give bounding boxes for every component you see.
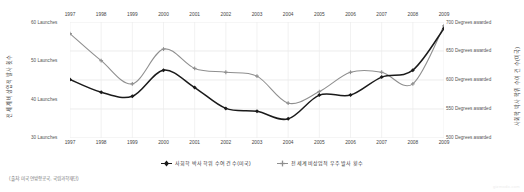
x-tick-label-bottom-1997: 1997 — [57, 141, 83, 146]
y-left-tick-label-50: 50 Launches — [31, 59, 57, 64]
x-tick-label-top-2007: 2007 — [369, 13, 395, 18]
left-axis-title: 전 세계 비상업적 발사 횟수 — [7, 31, 12, 143]
x-tick-label-bottom-1999: 1999 — [119, 141, 145, 146]
x-tick-label-top-2009: 2009 — [431, 13, 457, 18]
x-tick-label-bottom-2005: 2005 — [306, 141, 332, 146]
x-tick-label-top-1997: 1997 — [57, 13, 83, 18]
y-left-tick-label-30: 30 Launches — [31, 136, 57, 141]
source-note: (출처: 미국 연방항공국, 국립과학재단) — [9, 177, 78, 182]
legend-label-sociology: 사회학 박사 학위 수여 건 수(미국) — [175, 161, 250, 166]
x-tick-label-bottom-2007: 2007 — [369, 141, 395, 146]
chart-container: 전 세계 비상업적 발사 횟수 사회학 박사 학위 수여 건 수(미국) 60 … — [0, 0, 524, 192]
legend-item-launches[interactable]: 전 세계 비상업적 우주 발사 횟수 — [277, 160, 363, 167]
plot-area — [70, 22, 444, 138]
plus-marker-icon — [277, 160, 288, 167]
legend-label-launches: 전 세계 비상업적 우주 발사 횟수 — [291, 161, 363, 166]
chart-legend: 사회학 박사 학위 수여 건 수(미국) 전 세계 비상업적 우주 발사 횟수 — [0, 160, 524, 167]
y-right-tick-label-600: 600 Degrees awarded — [446, 78, 491, 83]
legend-item-sociology[interactable]: 사회학 박사 학위 수여 건 수(미국) — [161, 160, 250, 167]
watermark: gizmodo.com — [493, 185, 520, 189]
x-tick-label-bottom-2008: 2008 — [400, 141, 426, 146]
y-right-tick-label-700: 700 Degrees awarded — [446, 21, 491, 26]
x-tick-label-bottom-2003: 2003 — [244, 141, 270, 146]
y-left-tick-label-40: 40 Launches — [31, 98, 57, 103]
x-tick-label-top-2000: 2000 — [151, 13, 177, 18]
x-tick-label-top-1998: 1998 — [88, 13, 114, 18]
y-right-tick-label-650: 650 Degrees awarded — [446, 49, 491, 54]
x-tick-label-top-2002: 2002 — [213, 13, 239, 18]
x-tick-label-top-2004: 2004 — [275, 13, 301, 18]
x-tick-label-top-2001: 2001 — [182, 13, 208, 18]
x-tick-label-bottom-1998: 1998 — [88, 141, 114, 146]
y-right-tick-label-550: 550 Degrees awarded — [446, 107, 491, 112]
x-tick-label-top-2003: 2003 — [244, 13, 270, 18]
x-tick-label-bottom-2006: 2006 — [338, 141, 364, 146]
diamond-marker-icon — [161, 160, 172, 167]
grid-lines — [70, 22, 444, 138]
y-left-tick-label-60: 60 Launches — [31, 21, 57, 26]
right-axis-title: 사회학 박사 학위 수여 건 수(미국) — [515, 31, 520, 143]
x-tick-label-bottom-2002: 2002 — [213, 141, 239, 146]
x-tick-label-top-2005: 2005 — [306, 13, 332, 18]
x-tick-label-bottom-2001: 2001 — [182, 141, 208, 146]
x-tick-label-top-2006: 2006 — [338, 13, 364, 18]
x-tick-label-bottom-2004: 2004 — [275, 141, 301, 146]
x-tick-label-top-1999: 1999 — [119, 13, 145, 18]
x-tick-label-bottom-2009: 2009 — [431, 141, 457, 146]
x-tick-label-top-2008: 2008 — [400, 13, 426, 18]
x-tick-label-bottom-2000: 2000 — [151, 141, 177, 146]
